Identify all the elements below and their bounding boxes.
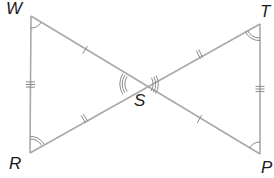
angle-arc-w	[31, 22, 41, 28]
angle-arc-p	[250, 142, 260, 148]
label-p: P	[261, 159, 272, 176]
diagram-canvas	[0, 0, 274, 178]
label-w: W	[6, 0, 22, 17]
label-r: R	[9, 155, 21, 172]
label-t: T	[260, 3, 270, 20]
angle-arc-s-left	[125, 77, 127, 92]
label-s: S	[134, 92, 145, 109]
bowtie-diagram: W T R P S	[0, 0, 274, 178]
